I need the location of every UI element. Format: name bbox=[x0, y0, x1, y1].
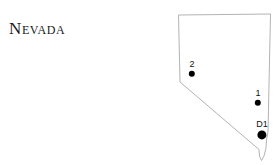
nevada-map-figure: Nevada 2 1 D1 bbox=[0, 0, 279, 165]
map-svg bbox=[0, 0, 279, 165]
map-marker-label-2: 2 bbox=[189, 60, 194, 69]
map-marker-label-d1: D1 bbox=[256, 120, 268, 129]
map-canvas: 2 1 D1 bbox=[0, 0, 279, 165]
map-marker-label-1: 1 bbox=[255, 89, 260, 98]
